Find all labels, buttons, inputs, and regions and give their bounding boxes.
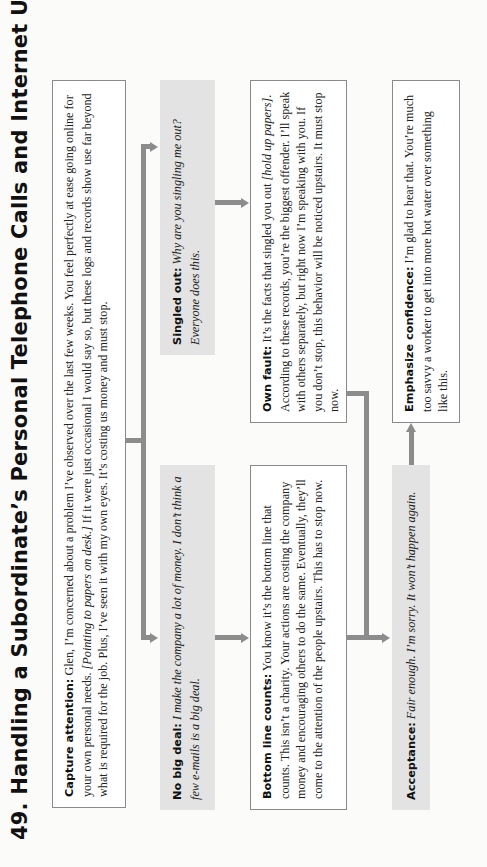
arrow-to-emphasize-icon: [406, 423, 416, 432]
emphasize-confidence-box: Emphasize confidence: I’m glad to hear t…: [392, 80, 460, 423]
own-fault-box: Own fault: It’s the facts that singled y…: [250, 80, 347, 423]
capture-attention-stage-direction: [Pointing to papers on desk.]: [80, 526, 94, 669]
own-fault-label: Own fault:: [261, 346, 274, 412]
connector-branch-bar: [141, 144, 146, 640]
singled-out-label: Singled out:: [171, 268, 184, 345]
arrow-to-no-big-deal-icon: [150, 633, 158, 643]
connector-acceptance-to-emphasize: [409, 431, 414, 465]
connector-singled-out-to-own-fault: [215, 200, 243, 205]
singled-out-box: Singled out: Why are you singling me out…: [160, 80, 215, 355]
no-big-deal-box: No big deal: I make the company a lot of…: [160, 465, 215, 810]
arrow-to-acceptance-icon: [382, 633, 390, 643]
own-fault-text-1: It’s the facts that singled you out: [260, 180, 274, 345]
connector-merge-bar: [364, 391, 369, 640]
capture-attention-label: Capture attention:: [63, 679, 76, 797]
own-fault-stage-direction: [hold up papers]: [260, 98, 274, 181]
capture-attention-box: Capture attention: Glen, I’m concerned a…: [52, 80, 126, 808]
page-title: 49. Handling a Subordinate’s Personal Te…: [8, 10, 32, 840]
acceptance-text: Fair enough. I’m sorry. It won’t happen …: [404, 492, 418, 723]
connector-no-big-deal-to-bottom-line: [215, 635, 243, 640]
acceptance-label: Acceptance:: [405, 722, 418, 800]
emphasize-confidence-label: Emphasize confidence:: [403, 266, 416, 412]
arrow-to-bottom-line-icon: [241, 633, 249, 643]
no-big-deal-label: No big deal:: [171, 723, 184, 800]
bottom-line-label: Bottom line counts:: [261, 674, 274, 799]
flowchart-page: 49. Handling a Subordinate’s Personal Te…: [0, 0, 487, 867]
acceptance-box: Acceptance: Fair enough. I’m sorry. It w…: [392, 465, 430, 810]
arrow-to-own-fault-icon: [241, 198, 249, 208]
bottom-line-box: Bottom line counts: You know it’s the bo…: [250, 465, 347, 810]
arrow-to-singled-out-icon: [150, 142, 158, 152]
